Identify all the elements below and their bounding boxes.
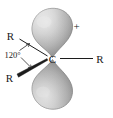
substituent-right-label: R	[96, 53, 104, 65]
orbital-diagram-canvas: C R R R 120° +	[0, 0, 113, 118]
upper-lobe-highlight	[37, 16, 52, 28]
carbocation-p-orbital-diagram: C R R R 120° +	[0, 0, 113, 118]
angle-annotation-arrows	[20, 44, 32, 69]
substituent-upper-left-label: R	[7, 30, 15, 42]
positive-charge-label: +	[73, 20, 79, 32]
lower-lobe-highlight	[36, 87, 50, 98]
p-orbital-lower-lobe	[32, 60, 73, 110]
center-atom-label: C	[49, 53, 56, 65]
substituent-lower-left-label: R	[6, 72, 14, 84]
bond-angle-label: 120°	[5, 50, 21, 60]
